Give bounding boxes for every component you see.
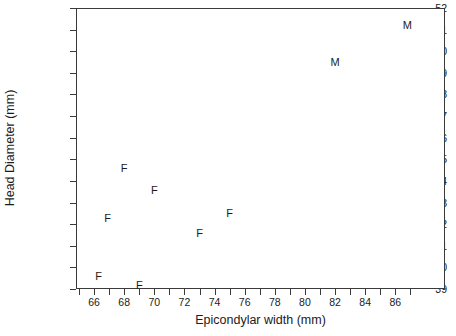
data-point-m: M [330, 57, 339, 68]
x-axis-minor-tick [320, 289, 321, 295]
plot-data-area: FFFFFFFMM [76, 8, 445, 289]
data-point-f: F [226, 208, 233, 219]
x-axis-minor-tick [79, 289, 80, 295]
x-axis-minor-tick [260, 289, 261, 295]
x-axis-tick [305, 289, 306, 295]
x-axis-tick-label: 76 [239, 297, 251, 308]
x-axis-tick-label: 80 [299, 297, 311, 308]
x-axis-minor-tick [350, 289, 351, 295]
x-axis-tick-label: 74 [209, 297, 221, 308]
data-point-f: F [136, 279, 143, 289]
x-axis-tick [184, 289, 185, 295]
x-axis-minor-tick [290, 289, 291, 295]
x-axis-minor-tick [230, 289, 231, 295]
x-axis-tick-label: 84 [359, 297, 371, 308]
x-axis-minor-tick [200, 289, 201, 295]
x-axis-minor-tick [410, 289, 411, 295]
x-axis-tick [275, 289, 276, 295]
x-axis-tick-label: 66 [88, 297, 100, 308]
x-axis-tick [395, 289, 396, 295]
x-axis-tick-label: 70 [148, 297, 160, 308]
data-point-f: F [121, 162, 128, 173]
x-axis-tick-label: 68 [118, 297, 130, 308]
x-axis-minor-tick [139, 289, 140, 295]
scatter-plot-figure: Head Diameter (mm) 394041424344454647484… [0, 0, 456, 336]
data-point-m: M [403, 20, 412, 31]
x-axis-minor-tick [109, 289, 110, 295]
y-axis-title: Head Diameter (mm) [3, 48, 17, 248]
x-axis-tick [365, 289, 366, 295]
y-axis-tick [70, 289, 76, 290]
x-axis-tick [154, 289, 155, 295]
x-axis-title: Epicondylar width (mm) [76, 313, 445, 327]
data-point-f: F [151, 184, 158, 195]
x-axis-tick [335, 289, 336, 295]
x-axis-tick [215, 289, 216, 295]
x-axis-minor-tick [380, 289, 381, 295]
x-axis-tick [245, 289, 246, 295]
data-point-f: F [95, 271, 102, 282]
x-axis-tick-label: 78 [269, 297, 281, 308]
x-axis-minor-tick [169, 289, 170, 295]
x-axis-tick-label: 72 [179, 297, 191, 308]
x-axis-tick-label: 86 [389, 297, 401, 308]
x-axis-tick [94, 289, 95, 295]
data-point-f: F [196, 227, 203, 238]
x-axis-tick [124, 289, 125, 295]
data-point-f: F [104, 212, 111, 223]
x-axis-tick-label: 82 [329, 297, 341, 308]
